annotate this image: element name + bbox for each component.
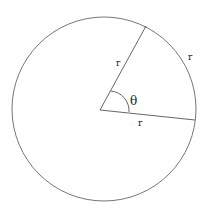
circle	[12, 17, 196, 201]
radius-upper	[100, 26, 146, 110]
radius-lower	[100, 110, 195, 120]
angle-arc	[111, 91, 129, 112]
label-arc: r	[188, 52, 193, 62]
label-radius-upper: r	[116, 58, 121, 68]
label-angle: θ	[130, 94, 137, 108]
label-radius-lower: r	[138, 118, 143, 128]
circle-diagram: r r θ r	[0, 0, 205, 214]
